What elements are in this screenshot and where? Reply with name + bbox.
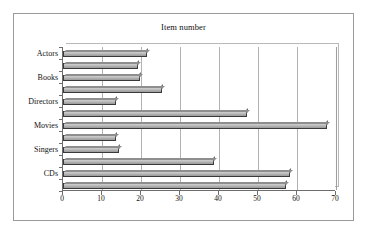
y-axis-category-label: CDs bbox=[44, 169, 58, 178]
y-axis-tick-mark bbox=[59, 47, 62, 48]
y-axis-tick-mark bbox=[59, 179, 62, 180]
y-axis-tick-mark bbox=[59, 131, 62, 132]
y-axis-tick-mark bbox=[59, 59, 62, 60]
chart-frame: Item number 010203040506070 ActorsBooksD… bbox=[13, 13, 354, 221]
bar-row bbox=[63, 121, 336, 129]
plot-area bbox=[62, 47, 335, 191]
y-axis-category-label: Books bbox=[38, 73, 58, 82]
bar[interactable] bbox=[63, 147, 119, 153]
y-axis-category-label: Movies bbox=[34, 121, 58, 130]
x-axis-tick-label: 30 bbox=[175, 194, 183, 203]
bar[interactable] bbox=[63, 135, 116, 141]
bar-row bbox=[63, 73, 336, 81]
y-axis-tick-mark bbox=[59, 155, 62, 156]
bar[interactable] bbox=[63, 63, 138, 69]
bar-row bbox=[63, 181, 336, 189]
y-axis-tick-mark bbox=[59, 167, 62, 168]
bar-row bbox=[63, 145, 336, 153]
y-axis-tick-mark bbox=[59, 119, 62, 120]
x-axis-tick-label: 20 bbox=[136, 194, 144, 203]
x-axis-tick-label: 70 bbox=[331, 194, 339, 203]
chart-title: Item number bbox=[14, 22, 353, 32]
y-axis-tick-mark bbox=[59, 71, 62, 72]
y-axis-tick-mark bbox=[59, 83, 62, 84]
bar[interactable] bbox=[63, 171, 290, 177]
x-axis-tick-label: 50 bbox=[253, 194, 261, 203]
bar[interactable] bbox=[63, 123, 327, 129]
bar-row bbox=[63, 133, 336, 141]
y-axis-tick-mark bbox=[59, 191, 62, 192]
bar-row bbox=[63, 49, 336, 57]
bar[interactable] bbox=[63, 51, 147, 57]
bar[interactable] bbox=[63, 75, 140, 81]
bar-row bbox=[63, 157, 336, 165]
bar-series-group bbox=[63, 47, 335, 190]
plot-wrapper: 010203040506070 ActorsBooksDirectorsMovi… bbox=[62, 47, 335, 191]
bar[interactable] bbox=[63, 183, 286, 189]
bar-row bbox=[63, 97, 336, 105]
x-axis-tick-label: 40 bbox=[214, 194, 222, 203]
x-axis-tick-label: 10 bbox=[97, 194, 105, 203]
y-axis-category-label: Directors bbox=[28, 97, 58, 106]
gridline bbox=[336, 47, 337, 190]
bar[interactable] bbox=[63, 99, 116, 105]
bar-row bbox=[63, 109, 336, 117]
bar[interactable] bbox=[63, 87, 162, 93]
y-axis-tick-mark bbox=[59, 143, 62, 144]
bar-row bbox=[63, 61, 336, 69]
bar[interactable] bbox=[63, 111, 247, 117]
y-axis-category-label: Actors bbox=[37, 49, 58, 58]
y-axis-tick-mark bbox=[59, 107, 62, 108]
bar-row bbox=[63, 85, 336, 93]
y-axis-tick-mark bbox=[59, 95, 62, 96]
bar[interactable] bbox=[63, 159, 214, 165]
y-axis-category-label: Singers bbox=[34, 145, 58, 154]
x-axis-tick-label: 60 bbox=[292, 194, 300, 203]
bar-row bbox=[63, 169, 336, 177]
x-axis-tick-label: 0 bbox=[60, 194, 64, 203]
